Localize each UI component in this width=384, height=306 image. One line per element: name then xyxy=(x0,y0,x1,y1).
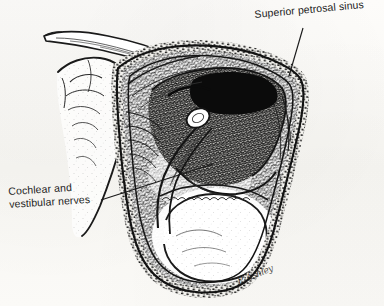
illustration-page: Superior petrosal sinus Cochlear andvest… xyxy=(0,0,384,306)
anatomical-figure xyxy=(0,0,384,306)
label-cochlear-vestibular-nerves: Cochlear andvestibular nerves xyxy=(8,181,90,211)
